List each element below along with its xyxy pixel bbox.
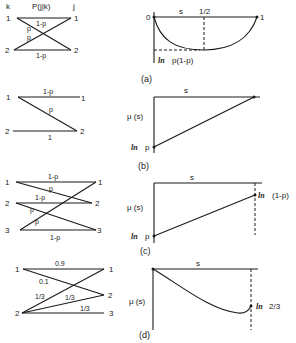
x-label: s — [190, 173, 194, 182]
start-label: p — [145, 143, 150, 152]
channel-title: P(j|k) — [32, 2, 51, 11]
mu-plot-c: s μ (s) ln p ln (1-p) — [127, 173, 289, 243]
mu-line — [154, 97, 254, 147]
end-label: 2/3 — [269, 302, 281, 311]
label-p3: p — [35, 218, 39, 226]
ln-prefix: ln — [131, 143, 138, 152]
output-3: 3 — [97, 226, 102, 235]
panel-b: 1 2 1 2 1-p p 1 s μ (s) ln p (b) — [5, 86, 260, 171]
label-diag: p — [49, 106, 53, 114]
x-label: s — [184, 86, 188, 95]
mu-line — [154, 195, 255, 236]
output-2: 2 — [80, 127, 85, 136]
start-label: p — [145, 232, 150, 241]
caption-d: (d) — [139, 330, 150, 340]
end-label: (1-p) — [272, 191, 289, 200]
label-p1: p — [49, 185, 53, 193]
input-header: k — [6, 2, 11, 11]
output-1: 1 — [81, 94, 86, 103]
label-bottom: 1-p — [50, 234, 60, 242]
ln-prefix-end: ln — [258, 191, 265, 200]
input-2: 2 — [5, 127, 10, 136]
input-1: 1 — [6, 14, 11, 23]
mu-curve — [154, 17, 257, 50]
label-top: 1-p — [43, 88, 53, 96]
output-2: 2 — [95, 199, 100, 208]
mu-curve — [153, 269, 251, 313]
start-dot — [153, 235, 156, 238]
label-bottom: 1 — [48, 134, 52, 141]
tick-half: 1/2 — [199, 7, 211, 16]
channel-diagram-c: 1 2 3 1 2 3 1-p p 1-p p p 1-p — [5, 173, 103, 242]
label-cross: 0.1 — [39, 278, 49, 285]
input-3: 3 — [5, 226, 10, 235]
caption-b: (b) — [138, 161, 149, 171]
panel-d: 1 2 1 2 3 0.9 0.1 1/3 1/3 1/3 s μ (s) — [15, 259, 281, 340]
x-label: s — [179, 7, 183, 16]
figure: k P(j|k) j 1 2 1 2 1-p p p 1-p 0 s — [0, 0, 296, 343]
output-3: 3 — [109, 309, 114, 318]
label-top: 0.9 — [55, 260, 65, 267]
ln-prefix: ln — [158, 56, 165, 65]
panel-a: k P(j|k) j 1 2 1 2 1-p p p 1-p 0 s — [5, 2, 265, 84]
end-dot — [254, 194, 257, 197]
edge-1-2 — [18, 97, 77, 131]
label-top: 1-p — [48, 173, 58, 181]
output-1: 1 — [109, 265, 114, 274]
ln-prefix: ln — [256, 302, 263, 311]
output-1: 1 — [74, 14, 79, 23]
start-dot — [153, 146, 156, 149]
label-top: 1-p — [36, 20, 46, 28]
input-1: 1 — [15, 265, 20, 274]
caption-a: (a) — [141, 74, 152, 84]
edge-1-2 — [16, 182, 92, 203]
origin-dot — [153, 16, 156, 19]
label-b: 1/3 — [65, 294, 75, 301]
min-label: p(1-p) — [172, 56, 194, 65]
ln-prefix-start: ln — [131, 232, 138, 241]
input-1: 1 — [5, 178, 10, 187]
mu-plot-b: s μ (s) ln p — [127, 86, 260, 153]
output-2: 2 — [74, 46, 79, 55]
y-label: μ (s) — [127, 112, 143, 121]
y-label: μ (s) — [127, 203, 143, 212]
label-a: 1/3 — [35, 293, 45, 300]
input-2: 2 — [15, 309, 20, 318]
mu-plot-a: 0 s 1/2 1 ln p(1-p) — [146, 7, 265, 65]
input-1: 1 — [6, 93, 11, 102]
label-mid: 1-p — [35, 194, 45, 202]
output-1: 1 — [98, 178, 103, 187]
output-2: 2 — [108, 291, 113, 300]
label-p2: p — [30, 206, 34, 214]
input-2: 2 — [5, 199, 10, 208]
end-dot — [250, 305, 253, 308]
mu-plot-d: s μ (s) ln 2/3 — [129, 259, 281, 330]
input-2: 2 — [5, 46, 10, 55]
label-cross-upper: p — [27, 25, 31, 33]
channel-diagram-b: 1 2 1 2 1-p p 1 — [5, 88, 86, 141]
output-header: j — [72, 2, 75, 11]
panel-c: 1 2 3 1 2 3 1-p p 1-p p p 1-p — [5, 173, 289, 256]
tick-0: 0 — [146, 13, 151, 22]
end-dot — [256, 16, 259, 19]
label-c: 1/3 — [80, 305, 90, 312]
caption-c: (c) — [140, 246, 151, 256]
x-label: s — [196, 259, 200, 268]
label-bottom: 1-p — [36, 52, 46, 60]
tick-1: 1 — [260, 13, 265, 22]
label-cross-lower: p — [27, 34, 31, 42]
end-dot — [253, 96, 256, 99]
channel-diagram-a: k P(j|k) j 1 2 1 2 1-p p p 1-p — [5, 2, 79, 60]
channel-diagram-d: 1 2 1 2 3 0.9 0.1 1/3 1/3 1/3 — [15, 260, 114, 318]
origin-dot — [152, 268, 155, 271]
y-label: μ (s) — [129, 297, 145, 306]
